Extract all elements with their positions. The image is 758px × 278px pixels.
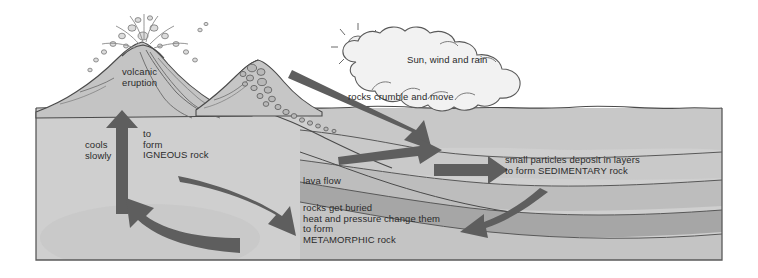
ground-strata	[36, 106, 722, 272]
label-rocks-crumble: rocks crumble and move	[348, 92, 454, 103]
label-lava-flow: lava flow	[303, 176, 341, 187]
label-volcanic-eruption: volcanic eruption	[122, 67, 157, 88]
label-sedimentary: small particles deposit in layers to for…	[505, 155, 640, 176]
label-to-form-igneous: to form IGNEOUS rock	[143, 129, 209, 161]
label-cools-slowly: cools slowly	[85, 140, 111, 161]
mountain-icon	[196, 60, 322, 116]
rock-cycle-diagram: volcanic eruption cools slowly to form I…	[0, 0, 758, 278]
label-sun-wind-rain: Sun, wind and rain	[407, 55, 488, 66]
label-metamorphic: rocks get buried heat and pressure chang…	[303, 203, 440, 245]
